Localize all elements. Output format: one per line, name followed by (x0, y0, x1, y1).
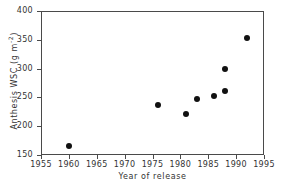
scatter-chart-figure: 195519601965197019751980198519901995 150… (0, 0, 281, 189)
data-point (194, 96, 200, 102)
data-point (66, 143, 72, 149)
y-axis-title-exponent: -2 (7, 36, 14, 43)
y-tick-mark (37, 11, 41, 12)
x-tick-mark (264, 155, 265, 159)
data-point (222, 66, 228, 72)
x-tick-mark (97, 155, 98, 159)
data-point (183, 111, 189, 117)
y-tick-mark (37, 40, 41, 41)
plot-area (41, 11, 264, 155)
data-point (155, 102, 161, 108)
y-tick-mark (37, 126, 41, 127)
y-tick-label: 150 (0, 150, 33, 160)
x-tick-mark (236, 155, 237, 159)
x-tick-mark (125, 155, 126, 159)
y-tick-mark (37, 69, 41, 70)
x-tick-mark (208, 155, 209, 159)
y-tick-mark (37, 155, 41, 156)
data-point (222, 88, 228, 94)
x-tick-mark (153, 155, 154, 159)
x-tick-mark (69, 155, 70, 159)
data-point (244, 35, 250, 41)
y-tick-mark (37, 97, 41, 98)
y-axis-title-tail: ) (10, 32, 19, 36)
y-axis-title-main: Anthesis WSC (g m (10, 43, 19, 130)
x-tick-label: 1995 (244, 160, 281, 170)
x-tick-mark (180, 155, 181, 159)
x-axis-title: Year of release (41, 172, 264, 181)
data-point (211, 93, 217, 99)
y-axis-title: Anthesis WSC (g m-2) (7, 11, 19, 151)
x-tick-mark (41, 155, 42, 159)
